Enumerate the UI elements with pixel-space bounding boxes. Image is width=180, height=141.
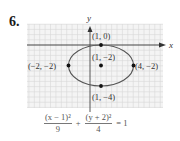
point-center [99,64,103,68]
plus-sign: + [75,118,82,128]
x-term-numerator: (x − 1)² [44,113,72,124]
x-axis-label: x [168,40,173,50]
point-top [99,43,103,47]
label-center: (1, −2) [92,52,115,62]
y-term-numerator: (y + 2)² [85,113,113,124]
point-left [67,64,71,68]
label-right: (4, −2) [135,61,158,71]
point-bottom [99,84,103,88]
fraction-y-term: (y + 2)² 4 [85,113,113,133]
x-term-denominator: 9 [56,124,60,134]
equals-one: = 1 [115,118,128,128]
y-term-denominator: 4 [96,124,100,134]
y-axis-label: y [86,13,91,23]
ellipse-equation: (x − 1)² 9 + (y + 2)² 4 = 1 [44,113,129,133]
fraction-x-term: (x − 1)² 9 [44,113,72,133]
label-left: (−2, −2) [28,61,56,71]
label-bottom: (1, −4) [92,92,115,102]
label-top: (1, 0) [92,31,111,41]
